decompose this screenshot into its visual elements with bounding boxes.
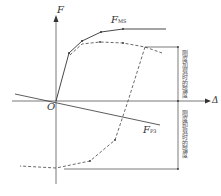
y-axis-arrow-icon xyxy=(54,15,59,22)
diagram-canvas xyxy=(0,0,221,196)
dashed-loop-top xyxy=(70,42,162,55)
hysteresis-diagram: F Δ O FMS FP3 刚度加载时的强度 刚度卸载时的强度 xyxy=(0,0,221,196)
axis-x-label: Δ xyxy=(212,95,219,105)
origin-label: O xyxy=(47,101,55,112)
fp3-label: FP3 xyxy=(143,124,157,135)
dashed-loop-bottom xyxy=(20,47,145,168)
x-axis-arrow-icon xyxy=(205,99,211,104)
curve-fms xyxy=(56,29,166,101)
annotation-lower: 刚度卸载时的强度 xyxy=(180,110,189,158)
annotation-upper: 刚度加载时的强度 xyxy=(180,50,189,98)
line-fp3 xyxy=(15,94,160,125)
fms-label: FMS xyxy=(111,14,127,25)
axis-y-label: F xyxy=(57,4,64,15)
